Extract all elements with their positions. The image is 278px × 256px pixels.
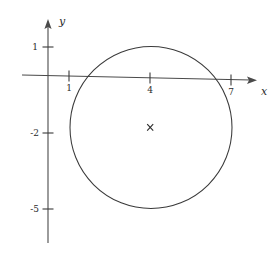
y-tick-label-minus5: -5: [30, 204, 39, 214]
x-tick-label-7: 7: [228, 87, 234, 97]
figure-canvas: 1 4 7 1 -2 -5 x y: [0, 0, 278, 256]
coordinate-plot: 1 4 7 1 -2 -5 x y: [0, 0, 278, 256]
x-tick-label-4: 4: [147, 85, 153, 95]
y-axis-label: y: [58, 15, 66, 28]
y-tick-label-minus2: -2: [30, 128, 39, 138]
x-tick-label-1: 1: [66, 83, 72, 93]
circle-center-marker: [147, 124, 153, 130]
x-axis-label: x: [261, 85, 268, 98]
y-tick-label-1: 1: [32, 42, 38, 52]
